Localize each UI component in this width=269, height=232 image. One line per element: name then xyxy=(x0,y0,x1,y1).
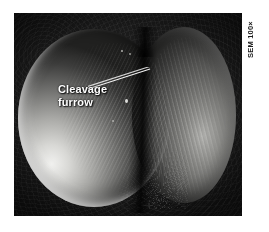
magnification-caption: SEM 100× xyxy=(246,44,269,58)
figure-root: Cleavage furrow SEM 100× xyxy=(0,0,269,232)
micrograph-plate: Cleavage furrow xyxy=(14,13,242,216)
cell-lobe-right xyxy=(132,27,236,203)
dividing-cell xyxy=(14,13,242,216)
